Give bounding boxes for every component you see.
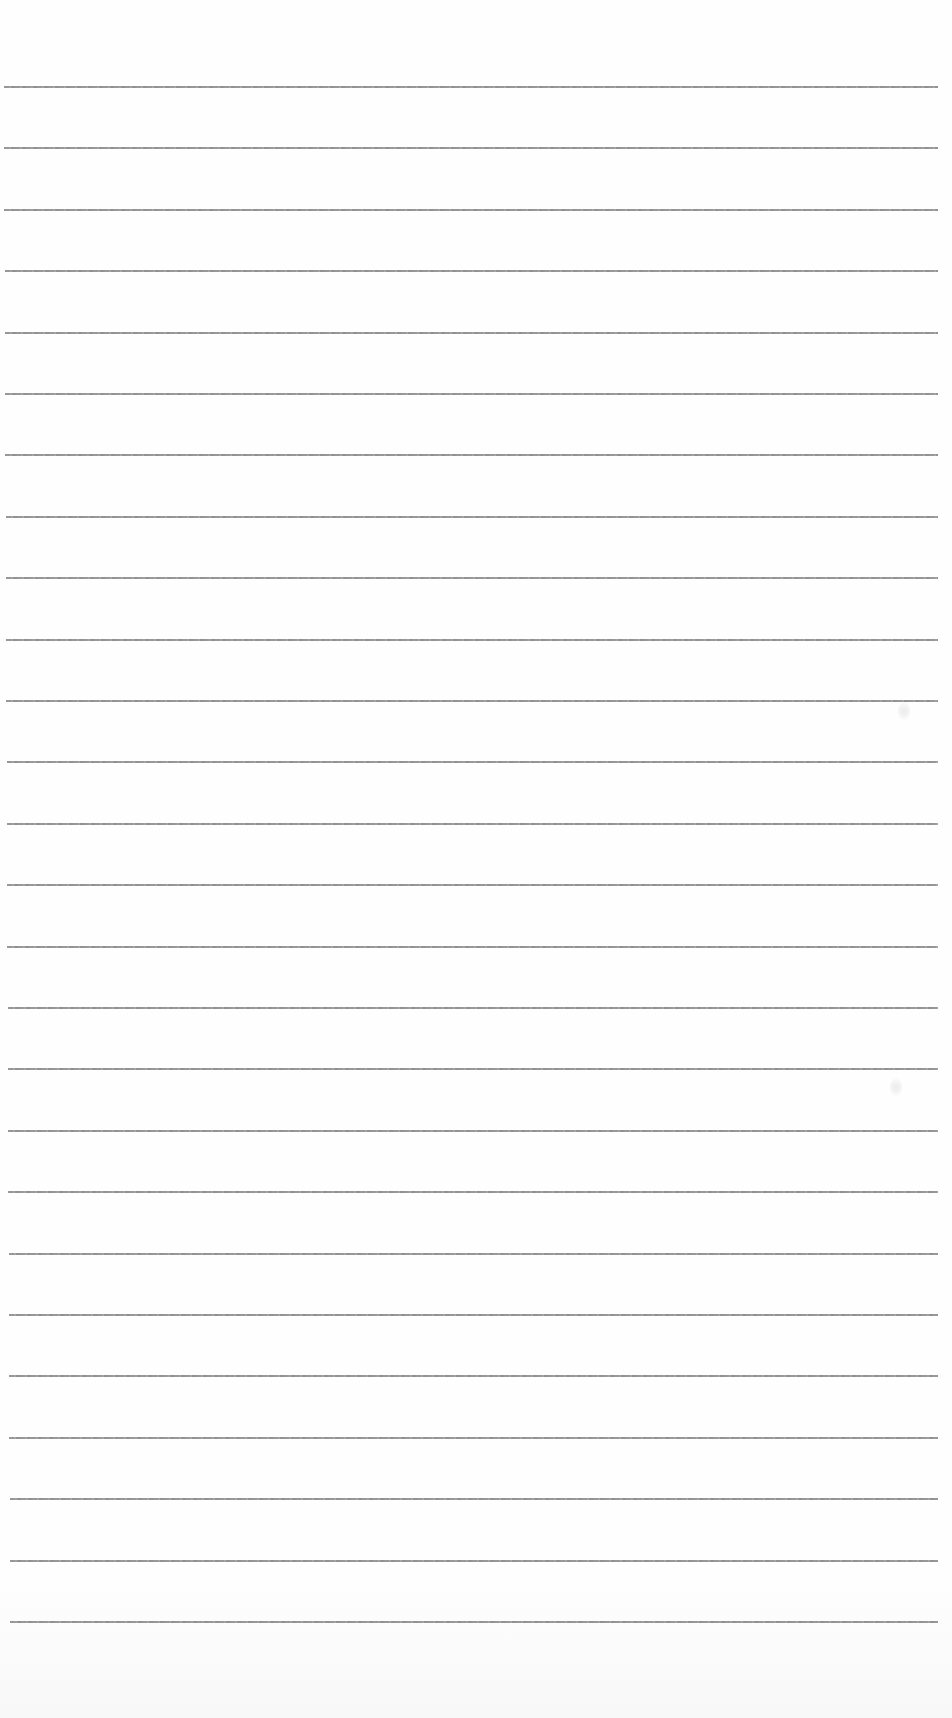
ruled-line: [7, 946, 938, 948]
ruled-line: [4, 86, 938, 88]
ruled-line: [10, 1498, 938, 1500]
ruled-line: [8, 1007, 938, 1009]
ruled-line: [8, 1068, 938, 1070]
ruled-line: [8, 1130, 938, 1132]
ruled-line: [7, 761, 938, 763]
scan-speck: [898, 702, 910, 720]
ruled-line: [4, 147, 938, 149]
ruled-line: [7, 823, 938, 825]
ruled-line: [9, 1437, 938, 1439]
ruled-line: [5, 454, 938, 456]
ruled-line: [5, 393, 938, 395]
ruled-line: [7, 884, 938, 886]
ruled-line: [4, 209, 938, 211]
ruled-line: [8, 1191, 938, 1193]
ruled-line: [5, 270, 938, 272]
scan-speck: [890, 1078, 902, 1096]
ruled-line: [6, 516, 938, 518]
ruled-line: [9, 1375, 938, 1377]
ruled-line: [5, 332, 938, 334]
ruled-line: [10, 1621, 938, 1623]
ruled-line: [10, 1560, 938, 1562]
ruled-line: [6, 577, 938, 579]
ruled-line: [6, 639, 938, 641]
ruled-line: [6, 700, 938, 702]
ruled-paper-sheet: [0, 0, 952, 1718]
ruled-line: [9, 1314, 938, 1316]
ruled-line: [9, 1253, 938, 1255]
